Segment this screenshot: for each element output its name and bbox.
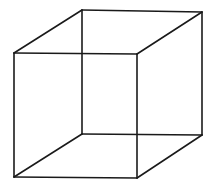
cube-edge-front-bottom-right-to-front-bottom-left — [14, 177, 137, 178]
cube-edge-front-bottom-right-to-back-bottom-right — [137, 135, 202, 178]
cube-edge-front-top-left-to-back-top-left — [14, 10, 82, 53]
necker-cube-drawing — [0, 0, 216, 188]
cube-edge-front-top-left-to-front-top-right — [14, 53, 137, 54]
cube-edge-back-bottom-right-to-back-bottom-left — [82, 134, 202, 135]
cube-edges — [14, 10, 202, 178]
cube-edge-front-top-right-to-back-top-right — [137, 12, 202, 54]
cube-edge-back-top-left-to-back-top-right — [82, 10, 202, 12]
cube-edge-front-bottom-left-to-back-bottom-left — [14, 134, 82, 177]
